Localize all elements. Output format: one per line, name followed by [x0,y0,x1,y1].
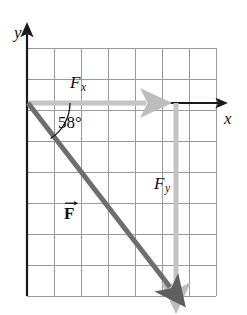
x-component-subscript: x [81,81,86,94]
y-component-label: Fy [154,175,170,195]
x-component-label: Fx [70,74,86,94]
force-vector [28,103,170,287]
y-axis-label: y [14,24,22,41]
angle-label: 58° [58,114,82,131]
grid-lines [27,48,216,296]
force-vector-label: F [64,205,74,222]
diagram-canvas [0,0,247,315]
vector-arrow-accent-icon [65,200,78,206]
x-axis-label: x [224,110,232,127]
y-component-subscript: y [165,182,170,195]
vector-diagram-figure: y x Fx Fy 58° F [0,0,247,315]
